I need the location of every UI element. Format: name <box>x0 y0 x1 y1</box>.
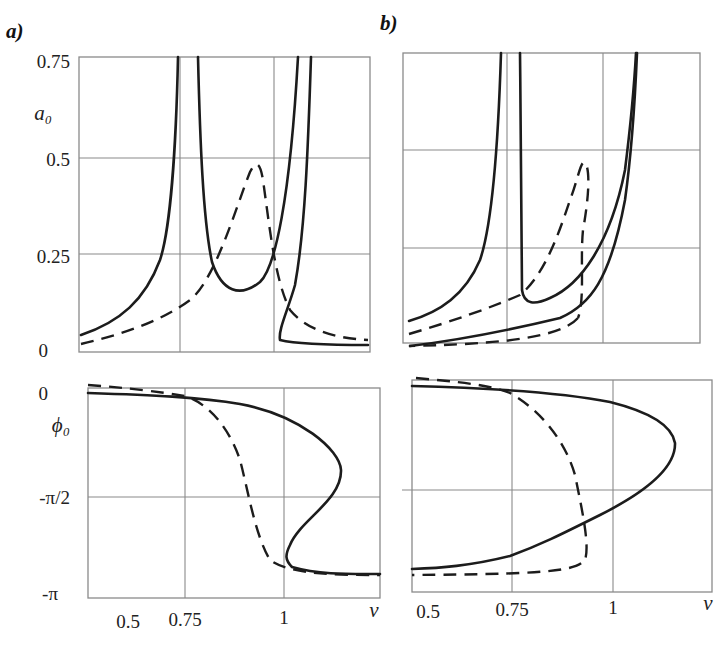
x-axis-label-nu: ν <box>369 598 379 622</box>
y-tick-0.75: 0.75 <box>37 51 70 72</box>
figure: a) b) 0.75 a₀ 0.5 0.25 0 0 ϕ₀ -π/2 -π 0.… <box>0 0 728 655</box>
chart-a-top: 0.75 a₀ 0.5 0.25 0 <box>34 51 370 361</box>
y-axis-label-phi0: ϕ₀ <box>52 413 70 437</box>
x-tick-0.5: 0.5 <box>416 601 440 622</box>
curve-dashed <box>412 378 587 575</box>
curve-solid-middle <box>520 53 636 303</box>
curve-solid-left <box>81 57 178 335</box>
curve-solid-middle <box>198 57 298 291</box>
curve-solid <box>88 393 380 574</box>
plot-frame <box>403 53 700 343</box>
panel-label-a: a) <box>6 19 24 43</box>
panel-label-b: b) <box>380 11 398 35</box>
y-tick-neg-half-pi: -π/2 <box>39 487 70 508</box>
curve-solid-right <box>280 57 368 345</box>
chart-a-bottom: 0 ϕ₀ -π/2 -π 0.5 0.75 1 ν <box>39 383 381 632</box>
y-tick-0: 0 <box>39 383 49 404</box>
x-axis-label-nu: ν <box>703 591 713 615</box>
plot-frame <box>412 380 712 592</box>
y-tick-0: 0 <box>39 340 49 361</box>
curve-solid-left <box>409 53 501 321</box>
curve-solid <box>412 386 675 569</box>
curve-dashed <box>88 385 380 575</box>
chart-b-bottom: 0.5 0.75 1 ν <box>402 378 713 622</box>
x-tick-0.75: 0.75 <box>495 599 528 620</box>
y-tick-neg-pi: -π <box>42 583 58 604</box>
chart-b-top <box>403 53 700 346</box>
x-tick-1: 1 <box>279 607 289 628</box>
plot-frame <box>79 57 370 352</box>
y-tick-0.25: 0.25 <box>37 246 70 267</box>
y-axis-label-a0: a₀ <box>34 101 52 125</box>
x-tick-0.5: 0.5 <box>116 611 140 632</box>
plot-frame <box>88 388 380 598</box>
x-tick-0.75: 0.75 <box>168 609 201 630</box>
y-tick-0.5: 0.5 <box>46 149 70 170</box>
x-tick-1: 1 <box>608 597 618 618</box>
